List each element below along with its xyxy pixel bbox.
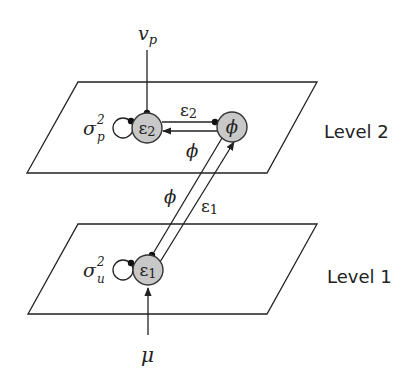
level-1-plane [28, 224, 317, 314]
input-vp-label: vp [138, 22, 158, 47]
edge-phi-to-eps2-label: ϕ [186, 140, 198, 161]
edge-eps2-to-phi-label: ε2 [180, 100, 197, 121]
hierarchical-model-diagram: ε2 ϕ ε1 vp μ σ 2 p σ 2 u ε2 ϕ ϕ ε1 Level… [0, 0, 420, 385]
level-2-label: Level 2 [324, 121, 389, 142]
input-mu-label: μ [141, 343, 154, 367]
node-eps1: ε1 [133, 255, 163, 285]
self-loop-eps1-sup: 2 [96, 255, 105, 269]
edge-phi-to-eps1-label: ϕ [164, 186, 176, 207]
level-1-label: Level 1 [327, 266, 392, 287]
self-loop-eps1-label: σ [83, 259, 97, 281]
self-loop-eps2-label: σ [83, 117, 97, 139]
level-2-plane [27, 82, 317, 173]
self-loop-eps2-sub: p [97, 130, 105, 144]
edge-eps1-to-phi-label: ε1 [201, 196, 218, 217]
node-eps2: ε2 [132, 113, 162, 143]
self-loop-eps1-sub: u [97, 272, 105, 286]
node-phi-label: ϕ [226, 116, 238, 137]
self-loop-eps2-sup: 2 [96, 113, 105, 127]
node-phi: ϕ [217, 112, 247, 142]
